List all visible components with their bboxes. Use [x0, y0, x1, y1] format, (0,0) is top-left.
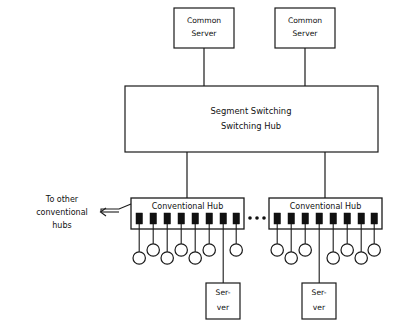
hub-continuation-ellipsis-icon — [248, 216, 266, 220]
hub-left-port-8[interactable] — [233, 213, 240, 224]
conventional-hub-right-label: Conventional Hub — [290, 202, 361, 211]
hub-right-port-8[interactable] — [371, 213, 378, 224]
hub-left-terminal-3[interactable] — [161, 252, 173, 264]
hub-left-terminal-7[interactable] — [230, 244, 242, 256]
segment-switching-hub-group[interactable]: Segment Switching Switching Hub — [125, 86, 378, 152]
network-diagram: Common Server Common Server Segment Swit… — [0, 0, 398, 327]
hub-left-terminal-6[interactable] — [203, 244, 215, 256]
hub-right-terminal-7[interactable] — [368, 244, 380, 256]
common-server-left-box[interactable] — [174, 8, 234, 48]
hub-left-port-4[interactable] — [178, 213, 185, 224]
hub-left-terminal-2[interactable] — [147, 244, 159, 256]
segment-switching-hub-box[interactable] — [125, 86, 378, 152]
hub-left-server-label-line1: Ser- — [216, 288, 231, 297]
common-server-left-label-line1: Common — [187, 16, 221, 25]
hub-right-port-5[interactable] — [330, 213, 337, 224]
hub-left-port-5[interactable] — [192, 213, 199, 224]
conventional-hub-right-group[interactable]: Conventional Hub — [269, 198, 382, 283]
ellipsis-dot-3 — [262, 216, 266, 220]
hub-right-terminal-2[interactable] — [285, 252, 297, 264]
to-other-hubs-annotation-group: To other conventional hubs — [36, 195, 131, 230]
ellipsis-dot-1 — [248, 216, 252, 220]
hub-left-terminal-4[interactable] — [175, 244, 187, 256]
hub-right-port-2[interactable] — [288, 213, 295, 224]
diagram-canvas: Common Server Common Server Segment Swit… — [0, 0, 398, 327]
segment-switching-hub-label-line1: Segment Switching — [211, 106, 292, 116]
hub-left-port-3[interactable] — [164, 213, 171, 224]
hub-right-port-3[interactable] — [302, 213, 309, 224]
hub-right-port-1[interactable] — [274, 213, 281, 224]
hub-right-port-6[interactable] — [344, 213, 351, 224]
hub-right-terminal-3[interactable] — [299, 244, 311, 256]
hub-right-terminal-6[interactable] — [355, 252, 367, 264]
segment-switching-hub-label-line2: Switching Hub — [221, 121, 281, 131]
hub-left-server-label-line2: ver — [217, 303, 230, 312]
hub-right-server-label-line2: ver — [313, 303, 326, 312]
hub-right-server-label-line1: Ser- — [312, 288, 327, 297]
ellipsis-dot-2 — [255, 216, 259, 220]
conventional-hub-left-label: Conventional Hub — [152, 202, 223, 211]
hub-right-port-4[interactable] — [316, 213, 323, 224]
common-server-right-box[interactable] — [275, 8, 335, 48]
to-other-hubs-label-line3: hubs — [52, 221, 71, 230]
hub-left-port-2[interactable] — [150, 213, 157, 224]
hub-left-port-6[interactable] — [206, 213, 213, 224]
hub-right-terminal-4[interactable] — [327, 252, 339, 264]
hub-left-terminal-5[interactable] — [189, 252, 201, 264]
common-server-right-label-line1: Common — [288, 16, 322, 25]
common-server-right-label-line2: Server — [293, 29, 319, 38]
to-other-hubs-label-line2: conventional — [36, 208, 88, 217]
conventional-hub-left-group[interactable]: Conventional Hub — [131, 198, 244, 283]
common-server-right-group[interactable]: Common Server — [275, 8, 335, 86]
hub-left-server-group[interactable]: Ser- ver — [206, 283, 240, 319]
hub-right-port-7[interactable] — [358, 213, 365, 224]
hub-right-terminal-5[interactable] — [341, 244, 353, 256]
to-other-hubs-label-line1: To other — [45, 195, 79, 204]
hub-right-terminal-1[interactable] — [271, 244, 283, 256]
hub-left-port-7[interactable] — [220, 213, 227, 224]
hub-right-server-group[interactable]: Ser- ver — [302, 283, 336, 319]
common-server-left-group[interactable]: Common Server — [174, 8, 234, 86]
common-server-left-label-line2: Server — [192, 29, 218, 38]
hub-left-port-1[interactable] — [136, 213, 143, 224]
hub-left-terminal-1[interactable] — [133, 252, 145, 264]
